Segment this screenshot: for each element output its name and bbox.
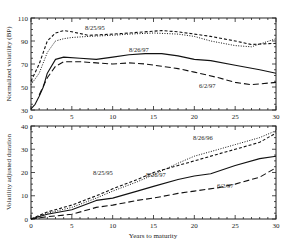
bottom-label-8-25-95: 8/25/95	[93, 169, 113, 176]
top-label-8-26-97: 8/26/97	[129, 46, 150, 53]
x-tick-label: 0	[29, 222, 33, 230]
y-tick-label: 70	[21, 61, 29, 69]
x-tick-label: 5	[70, 222, 74, 230]
x-tick-label: 25	[232, 222, 240, 230]
x-tick-label: 30	[273, 113, 281, 121]
y-tick-label: 30	[21, 107, 29, 115]
y-tick-label: 90	[21, 38, 29, 46]
y-tick-label: 30	[21, 146, 29, 154]
x-tick-label: 10	[109, 113, 117, 121]
top-y-axis-title: Normalized volatility (BP)	[5, 26, 13, 102]
top-label-6-2-97: 6/2/97	[199, 82, 216, 89]
y-tick-label: 0	[25, 216, 29, 224]
top-label-8-25-95: 8/25/95	[85, 24, 105, 31]
bottom-y-axis-title: Volatility adjusted duration	[5, 133, 13, 210]
y-tick-label: 110	[18, 15, 29, 23]
bottom-label-8-26-97: 8/26/97	[146, 171, 167, 178]
series-line-8-26-97	[31, 156, 276, 219]
y-tick-label: 50	[21, 84, 29, 92]
x-tick-label: 15	[150, 222, 158, 230]
series-line-8-26-96	[31, 33, 276, 85]
x-tick-label: 20	[191, 113, 199, 121]
top-series-group	[31, 31, 276, 109]
x-tick-label: 0	[29, 113, 33, 121]
y-tick-label: 10	[21, 192, 29, 200]
x-axis-title: Years to maturity	[129, 232, 178, 240]
top-axis-ticks: 05101520253030507090110	[18, 15, 280, 122]
x-tick-label: 25	[232, 113, 240, 121]
x-tick-label: 15	[150, 113, 158, 121]
x-tick-label: 5	[70, 113, 74, 121]
top-plot-frame	[31, 18, 276, 110]
bottom-label-6-2-97: 6/2/97	[217, 182, 234, 189]
x-tick-label: 10	[109, 222, 117, 230]
chart-canvas: 05101520253030507090110 Normalized volat…	[0, 0, 286, 244]
y-tick-label: 40	[21, 123, 29, 131]
bottom-label-8-26-96: 8/26/96	[193, 134, 214, 141]
x-tick-label: 30	[273, 222, 281, 230]
x-tick-label: 20	[191, 222, 199, 230]
y-tick-label: 20	[21, 169, 29, 177]
